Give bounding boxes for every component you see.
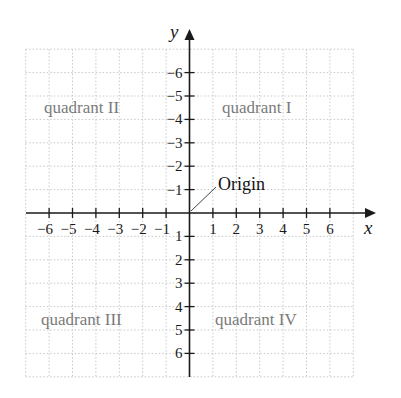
y-axis-label: y [168,21,179,42]
y-tick-label: 6 [175,345,183,361]
x-tick-label: −5 [61,221,77,237]
coordinate-plane: −6−5−4−3−2−1123456 654321−1−2−3−4−5−6 x … [0,0,401,398]
origin-leader-line [191,187,216,211]
y-tick-label: 1 [175,228,183,244]
x-tick-label: −3 [107,221,123,237]
y-tick-label: −4 [167,111,183,127]
x-tick-label: −6 [37,221,53,237]
y-axis-arrow-icon [185,29,195,40]
x-tick-label: −1 [154,221,170,237]
quadrant-iv-label: quadrant IV [215,310,297,329]
x-tick-label: −4 [84,221,100,237]
x-axis-label: x [363,217,373,238]
x-tick-label: 5 [303,221,311,237]
x-tick-label: −2 [131,221,147,237]
x-tick-label: 2 [233,221,241,237]
quadrant-ii-label: quadrant II [44,98,119,117]
x-tick-label: 3 [256,221,264,237]
y-tick-label: 4 [175,299,183,315]
y-tick-label: 3 [175,275,183,291]
y-tick-label: 5 [175,322,183,338]
x-tick-label: 1 [209,221,217,237]
quadrant-i-label: quadrant I [222,98,292,117]
quadrant-iii-label: quadrant III [41,310,122,329]
x-tick-label: 6 [326,221,334,237]
origin-label: Origin [218,174,265,194]
y-tick-label: −3 [167,135,183,151]
y-tick-label: −1 [167,182,183,198]
y-tick-label: −6 [167,65,183,81]
x-tick-label: 4 [279,221,287,237]
y-tick-label: 2 [175,252,183,268]
x-tick-labels: −6−5−4−3−2−1123456 [37,221,334,237]
y-tick-label: −2 [167,158,183,174]
y-tick-label: −5 [167,88,183,104]
